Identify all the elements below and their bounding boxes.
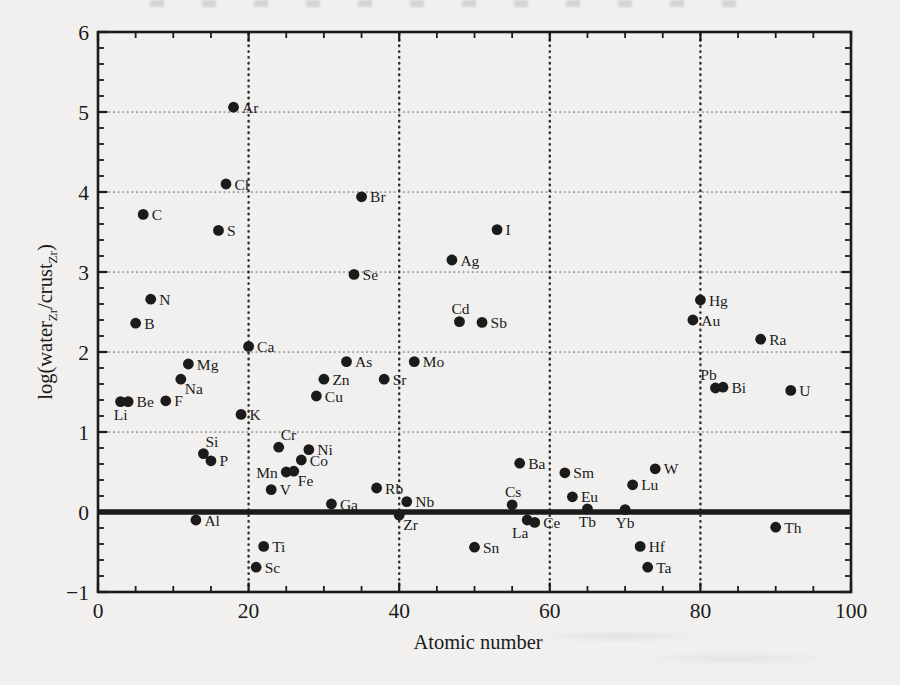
point-label-S: S xyxy=(227,222,236,239)
point-Lu xyxy=(627,479,638,490)
y-axis-tick-labels: 6543210−1 xyxy=(66,21,89,605)
point-label-V: V xyxy=(280,481,292,498)
point-Se xyxy=(349,269,360,280)
x-tick-label-80: 80 xyxy=(690,599,712,623)
point-Sc xyxy=(251,562,262,573)
point-Sm xyxy=(559,467,570,478)
point-label-Sc: Sc xyxy=(265,559,281,576)
point-N xyxy=(145,294,156,305)
y-tick-label-5: 5 xyxy=(78,101,89,125)
point-label-Yb: Yb xyxy=(616,514,635,531)
point-Ca xyxy=(243,341,254,352)
point-label-B: B xyxy=(144,315,154,332)
y-axis-label: log(waterZr/crustZr) xyxy=(34,244,60,399)
point-Al xyxy=(190,515,201,526)
point-label-W: W xyxy=(664,460,679,477)
point-label-Ba: Ba xyxy=(528,455,545,472)
y-tick-label-3: 3 xyxy=(78,261,89,285)
point-label-Cl: Cl xyxy=(235,176,250,193)
point-label-Sn: Sn xyxy=(483,539,500,556)
y-tick-label-6: 6 xyxy=(78,21,89,45)
x-axis-label: Atomic number xyxy=(413,631,542,653)
point-label-Hg: Hg xyxy=(709,292,728,309)
point-Rb xyxy=(371,483,382,494)
point-label-Cd: Cd xyxy=(451,300,469,317)
point-label-Cs: Cs xyxy=(505,483,521,500)
x-tick-label-0: 0 xyxy=(93,599,104,623)
point-label-Sr: Sr xyxy=(393,371,408,388)
point-label-Au: Au xyxy=(701,312,720,329)
y-tick-label-1: 1 xyxy=(78,421,89,445)
point-Zn xyxy=(319,374,330,385)
point-label-Ca: Ca xyxy=(257,338,274,355)
point-W xyxy=(650,463,661,474)
point-label-Sb: Sb xyxy=(491,314,508,331)
point-Sr xyxy=(379,374,390,385)
point-label-Ar: Ar xyxy=(242,99,259,116)
point-F xyxy=(160,395,171,406)
point-label-Ni: Ni xyxy=(317,441,333,458)
y-tick-label-4: 4 xyxy=(78,181,89,205)
point-Cs xyxy=(507,499,518,510)
point-label-Li: Li xyxy=(114,406,128,423)
point-Ta xyxy=(642,562,653,573)
point-label-Na: Na xyxy=(185,380,203,397)
point-label-Sm: Sm xyxy=(573,464,594,481)
point-Ba xyxy=(514,458,525,469)
point-label-F: F xyxy=(174,392,183,409)
point-label-Be: Be xyxy=(137,393,154,410)
point-label-Ti: Ti xyxy=(272,538,286,555)
scatter-plot: 020406080100 6543210−1 LiBeBCNFNaMgAlSiP… xyxy=(0,0,900,685)
point-label-Cu: Cu xyxy=(325,388,343,405)
axis-ticks xyxy=(98,32,851,592)
point-label-Cr: Cr xyxy=(281,426,297,443)
point-label-Br: Br xyxy=(370,188,386,205)
point-label-Th: Th xyxy=(784,519,801,536)
point-label-Fe: Fe xyxy=(298,472,314,489)
point-label-N: N xyxy=(159,291,170,308)
point-Hf xyxy=(635,541,646,552)
point-label-Ta: Ta xyxy=(656,559,671,576)
point-label-Ra: Ra xyxy=(769,331,786,348)
plot-frame xyxy=(98,32,851,592)
point-label-Mo: Mo xyxy=(423,353,445,370)
point-Br xyxy=(356,191,367,202)
x-tick-label-20: 20 xyxy=(238,599,260,623)
point-label-Al: Al xyxy=(204,512,220,529)
point-Ar xyxy=(228,102,239,113)
point-Nb xyxy=(401,496,412,507)
x-axis-tick-labels: 020406080100 xyxy=(93,599,868,623)
plot-border xyxy=(98,32,851,592)
x-tick-label-40: 40 xyxy=(388,599,410,623)
point-label-C: C xyxy=(152,206,162,223)
point-label-Bi: Bi xyxy=(731,379,746,396)
x-tick-label-60: 60 xyxy=(539,599,561,623)
point-I xyxy=(492,224,503,235)
point-Co xyxy=(296,455,307,466)
point-label-Mg: Mg xyxy=(197,356,219,373)
point-Cu xyxy=(311,391,322,402)
point-labels: LiBeBCNFNaMgAlSiPSClArKCaScTiVCrMnFeCoNi… xyxy=(114,99,811,576)
point-label-I: I xyxy=(506,221,511,238)
y-tick-label--1: −1 xyxy=(66,581,89,605)
point-Cr xyxy=(273,442,284,453)
point-label-Hf: Hf xyxy=(649,538,666,555)
point-label-U: U xyxy=(799,382,810,399)
point-S xyxy=(213,225,224,236)
point-label-Ag: Ag xyxy=(460,252,479,269)
point-label-Pb: Pb xyxy=(700,366,717,383)
point-label-Si: Si xyxy=(205,433,219,450)
gridlines xyxy=(100,34,849,590)
point-Ga xyxy=(326,499,337,510)
point-label-Nb: Nb xyxy=(415,493,434,510)
point-Bi xyxy=(718,382,729,393)
y-axis-label-text: log(waterZr/crustZr) xyxy=(34,244,60,399)
point-Eu xyxy=(567,491,578,502)
point-Sb xyxy=(477,317,488,328)
point-U xyxy=(785,385,796,396)
point-label-P: P xyxy=(219,452,228,469)
point-label-Ce: Ce xyxy=(543,514,560,531)
point-Ti xyxy=(258,541,269,552)
point-label-Mn: Mn xyxy=(256,464,278,481)
point-label-Eu: Eu xyxy=(581,488,598,505)
